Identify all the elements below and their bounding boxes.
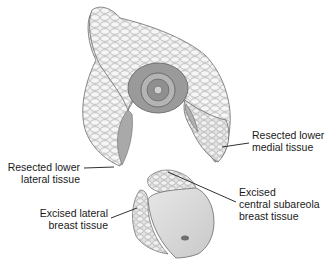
- nipple: [154, 86, 162, 94]
- upper-tissue-mass: [83, 7, 231, 166]
- label-line: breast tissue: [40, 219, 108, 231]
- label-line: breast tissue: [239, 210, 320, 222]
- label-resected-lower-medial: Resected lower medial tissue: [252, 129, 324, 153]
- label-resected-lower-lateral: Resected lower lateral tissue: [8, 161, 80, 185]
- label-line: Excised: [239, 186, 320, 198]
- label-line: medial tissue: [252, 141, 324, 153]
- label-excised-lateral: Excised lateral breast tissue: [40, 207, 108, 231]
- leader-line-lower-lateral: [84, 167, 114, 168]
- excised-tissue-piece: [133, 170, 214, 258]
- label-line: Resected lower: [252, 129, 324, 141]
- label-line: lateral tissue: [8, 173, 80, 185]
- label-line: Resected lower: [8, 161, 80, 173]
- skin-mark: [181, 236, 189, 241]
- label-line: Excised lateral: [40, 207, 108, 219]
- label-excised-central-subareola: Excised central subareola breast tissue: [239, 186, 320, 222]
- label-line: central subareola: [239, 198, 320, 210]
